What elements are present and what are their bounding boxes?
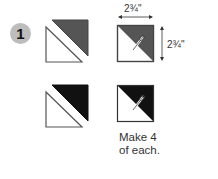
height-dimension-label: 2¾" <box>167 39 184 50</box>
gray-triangles-separated <box>46 20 88 62</box>
instruction-line-1: Make 4 <box>119 131 160 144</box>
height-dimension-arrow <box>160 26 164 61</box>
black-triangles-separated <box>46 85 88 127</box>
quilt-diagram <box>0 0 218 179</box>
width-dimension-arrow <box>118 15 153 19</box>
instruction-text: Make 4 of each. <box>119 131 160 157</box>
width-dimension-label: 2¾" <box>124 3 141 14</box>
gray-half-square-triangle <box>118 26 154 62</box>
black-half-square-triangle <box>118 86 154 122</box>
instruction-line-2: of each. <box>119 144 160 157</box>
